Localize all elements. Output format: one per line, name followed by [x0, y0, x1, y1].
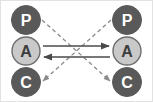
node-right-a[interactable]: A: [113, 37, 141, 65]
edge-group-dashed: [42, 20, 111, 81]
diagram-canvas: P A C P A C: [0, 0, 153, 102]
node-left-a[interactable]: A: [12, 37, 40, 65]
node-right-p-label: P: [122, 12, 133, 29]
node-left-p-label: P: [21, 12, 32, 29]
node-right-a-label: A: [121, 43, 133, 60]
node-left-p[interactable]: P: [12, 6, 41, 35]
node-right-c-label: C: [121, 74, 133, 91]
edge-p-right-to-c-left[interactable]: [43, 20, 111, 81]
edge-group-solid: [43, 46, 110, 57]
node-right-p[interactable]: P: [113, 6, 142, 35]
edge-p-left-to-c-right[interactable]: [42, 20, 110, 81]
node-right-c[interactable]: C: [113, 68, 142, 97]
node-left-a-label: A: [20, 43, 32, 60]
diagram-svg: P A C P A C: [1, 1, 152, 101]
node-left-c[interactable]: C: [12, 68, 41, 97]
node-left-c-label: C: [20, 74, 32, 91]
